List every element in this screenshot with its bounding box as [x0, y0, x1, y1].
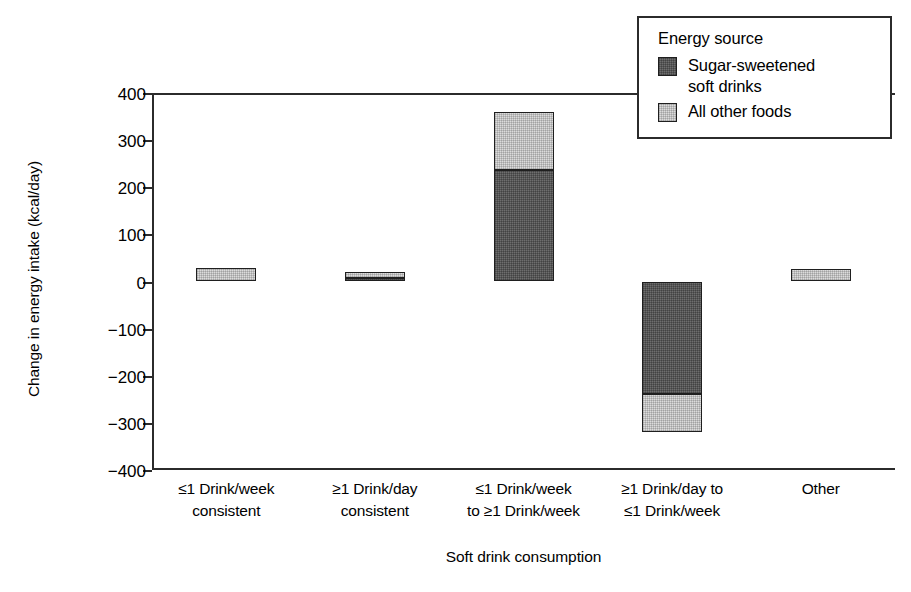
y-axis-title: Change in energy intake (kcal/day): [25, 99, 43, 459]
bar-segment-all-other-foods[interactable]: [494, 112, 554, 170]
bar-group[interactable]: [791, 93, 851, 470]
y-tick-label: −300: [108, 415, 146, 432]
bar-segment-all-other-foods[interactable]: [642, 394, 702, 432]
bar-segment-all-other-foods[interactable]: [791, 269, 851, 281]
legend-label-sugar-sweetened-soft-drinks: Sugar-sweetened soft drinks: [688, 55, 815, 97]
y-tick-label: 300: [118, 133, 146, 150]
bar-segment-sugar-sweetened-soft-drinks[interactable]: [494, 170, 554, 282]
x-axis-label-line1: ≥1 Drink/day: [295, 478, 456, 500]
x-axis-label-0: ≤1 Drink/weekconsistent: [146, 478, 307, 523]
bar-group[interactable]: [494, 93, 554, 470]
x-axis-label-line1: ≤1 Drink/week: [146, 478, 307, 500]
legend-item-all-other-foods: All other foods: [658, 101, 890, 122]
bar-series-container: [152, 93, 895, 470]
x-axis-category-labels: ≤1 Drink/weekconsistent≥1 Drink/dayconsi…: [152, 478, 895, 538]
chart-figure: Change in energy intake (kcal/day) 40030…: [0, 0, 911, 592]
x-axis-label-line2: consistent: [146, 500, 307, 522]
bar-segment-sugar-sweetened-soft-drinks[interactable]: [345, 278, 405, 282]
y-tick-label: −100: [108, 321, 146, 338]
x-axis-label-1: ≥1 Drink/dayconsistent: [295, 478, 456, 523]
bar-segment-all-other-foods[interactable]: [345, 272, 405, 278]
y-tick-label: 400: [118, 86, 146, 103]
x-axis-title: Soft drink consumption: [152, 548, 895, 566]
x-axis-label-line2: consistent: [295, 500, 456, 522]
bar-segment-sugar-sweetened-soft-drinks[interactable]: [642, 282, 702, 395]
x-axis-label-2: ≤1 Drink/weekto ≥1 Drink/week: [443, 478, 604, 523]
legend-item-sugar-sweetened-soft-drinks: Sugar-sweetened soft drinks: [658, 55, 890, 97]
x-axis-label-line2: ≤1 Drink/week: [592, 500, 753, 522]
bar-group[interactable]: [345, 93, 405, 470]
x-axis-label-line2: to ≥1 Drink/week: [443, 500, 604, 522]
x-axis-label-line1: ≥1 Drink/day to: [592, 478, 753, 500]
bar-segment-all-other-foods[interactable]: [196, 268, 256, 282]
y-tick-label: −200: [108, 368, 146, 385]
bar-group[interactable]: [642, 93, 702, 470]
y-tick-label: 100: [118, 227, 146, 244]
x-axis-label-line1: ≤1 Drink/week: [443, 478, 604, 500]
x-axis-label-line1: Other: [740, 478, 901, 500]
y-tick-label: 0: [137, 274, 146, 291]
legend-swatch-icon-light: [658, 103, 677, 122]
x-axis-label-3: ≥1 Drink/day to≤1 Drink/week: [592, 478, 753, 523]
plot-area: 4003002001000−100−200−300−400: [152, 93, 895, 470]
x-axis-label-4: Other: [740, 478, 901, 500]
legend: Energy source Sugar-sweetened soft drink…: [637, 16, 892, 139]
legend-label-line2: soft drinks: [688, 77, 762, 95]
legend-swatch-icon-dark: [658, 57, 677, 76]
legend-label-all-other-foods: All other foods: [688, 101, 791, 122]
legend-label-line1: Sugar-sweetened: [688, 56, 815, 74]
y-tick-label: −400: [108, 463, 146, 480]
bar-group[interactable]: [196, 93, 256, 470]
y-tick-label: 200: [118, 180, 146, 197]
legend-title: Energy source: [658, 29, 890, 48]
